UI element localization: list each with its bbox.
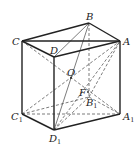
label-A1: A1: [122, 111, 134, 124]
label-D: D: [49, 45, 58, 56]
label-A: A: [122, 36, 130, 47]
label-B1: B1: [85, 97, 98, 110]
label-D1: D1: [48, 133, 61, 146]
edge-B1-A-dashed: [89, 41, 120, 97]
edge-B-A-solid: [89, 23, 120, 41]
edge-C1-D1-solid: [22, 114, 54, 130]
edge-A-D-solid: [54, 41, 120, 57]
label-C: C: [12, 36, 20, 47]
prism-diagram: A B C D O F A1 B1 C1 D1: [0, 0, 139, 159]
edge-C-B-solid: [22, 23, 89, 41]
label-O: O: [67, 67, 75, 78]
point-F: [87, 91, 89, 93]
label-C1: C1: [11, 111, 23, 124]
label-B: B: [85, 11, 93, 22]
edge-C1-B1-dashed: [22, 97, 89, 114]
